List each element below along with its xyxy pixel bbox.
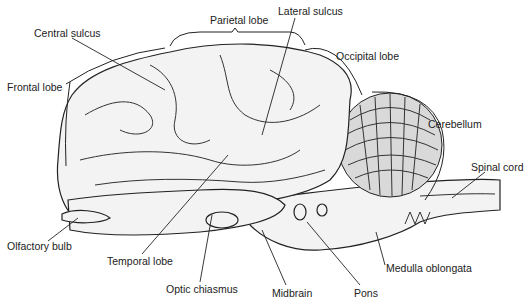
label-optic-chiasmus: Optic chiasmus (166, 283, 238, 295)
brain-illustration (0, 0, 528, 306)
label-frontal-lobe: Frontal lobe (7, 81, 62, 93)
label-occipital-lobe: Occipital lobe (336, 50, 399, 62)
label-lateral-sulcus: Lateral sulcus (278, 5, 343, 17)
label-pons: Pons (354, 287, 378, 299)
label-olfactory-bulb: Olfactory bulb (7, 240, 72, 252)
label-medulla-oblongata: Medulla oblongata (386, 262, 472, 274)
label-parietal-lobe: Parietal lobe (210, 14, 268, 26)
label-central-sulcus: Central sulcus (34, 27, 101, 39)
brain-diagram: Parietal lobe Lateral sulcus Central sul… (0, 0, 528, 306)
label-midbrain: Midbrain (272, 287, 312, 299)
label-cerebellum: Cerebellum (428, 118, 482, 130)
cerebellum-shape (338, 93, 442, 197)
label-spinal-cord: Spinal cord (471, 161, 524, 173)
label-temporal-lobe: Temporal lobe (107, 255, 173, 267)
parietal-lobe-brace (170, 28, 305, 46)
